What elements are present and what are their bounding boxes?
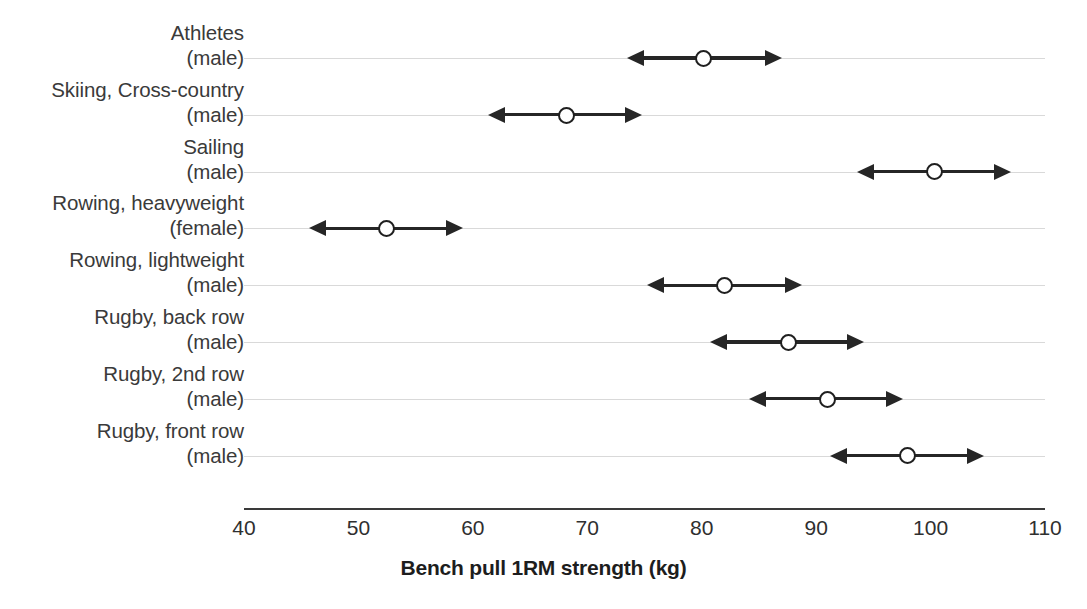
arrow-right-icon [967,448,984,464]
category-label-name: Rugby, front row [0,418,244,443]
arrow-right-icon [886,391,903,407]
x-axis-line [244,508,1045,510]
category-label: Rugby, back row(male) [0,304,244,354]
category-label: Rowing, lightweight(male) [0,247,244,297]
gridline [244,399,1045,400]
category-label-sex: (female) [0,215,244,240]
category-label-name: Athletes [0,20,244,45]
category-label: Rugby, front row(male) [0,418,244,468]
category-label-sex: (male) [0,386,244,411]
data-point-marker [716,277,733,294]
x-tick-label: 90 [804,516,827,540]
arrow-left-icon [488,107,505,123]
category-label-sex: (male) [0,45,244,70]
data-point-marker [926,163,943,180]
arrow-left-icon [647,277,664,293]
category-label-sex: (male) [0,159,244,184]
x-tick-label: 60 [461,516,484,540]
arrow-right-icon [994,164,1011,180]
gridline [244,342,1045,343]
category-label: Rowing, heavyweight(female) [0,190,244,240]
category-label-name: Skiing, Cross-country [0,77,244,102]
x-axis-title: Bench pull 1RM strength (kg) [0,556,1087,580]
category-label: Rugby, 2nd row(male) [0,361,244,411]
category-label-name: Rugby, back row [0,304,244,329]
arrow-left-icon [627,50,644,66]
category-label: Athletes(male) [0,20,244,70]
x-tick-label: 100 [913,516,948,540]
category-label-name: Sailing [0,134,244,159]
category-label: Skiing, Cross-country(male) [0,77,244,127]
arrow-right-icon [785,277,802,293]
arrow-right-icon [446,220,463,236]
x-tick-label: 110 [1028,516,1061,540]
category-label-sex: (male) [0,272,244,297]
category-label-sex: (male) [0,102,244,127]
arrow-left-icon [710,334,727,350]
x-tick-label: 40 [232,516,255,540]
category-label: Sailing(male) [0,134,244,184]
category-label-sex: (male) [0,443,244,468]
arrow-right-icon [847,334,864,350]
data-point-marker [780,334,797,351]
data-point-marker [558,107,575,124]
category-label-name: Rowing, heavyweight [0,190,244,215]
arrow-right-icon [625,107,642,123]
category-label-sex: (male) [0,329,244,354]
data-point-marker [819,391,836,408]
data-point-marker [899,447,916,464]
data-point-marker [695,50,712,67]
arrow-left-icon [309,220,326,236]
gridline [244,115,1045,116]
arrow-left-icon [857,164,874,180]
category-label-name: Rugby, 2nd row [0,361,244,386]
x-tick-label: 70 [576,516,599,540]
x-tick-label: 80 [690,516,713,540]
gridline [244,285,1045,286]
data-point-marker [378,220,395,237]
arrow-left-icon [830,448,847,464]
category-label-name: Rowing, lightweight [0,247,244,272]
x-tick-label: 50 [347,516,370,540]
arrow-right-icon [765,50,782,66]
arrow-left-icon [749,391,766,407]
bench-pull-strength-chart: 405060708090100110 Bench pull 1RM streng… [0,0,1087,609]
